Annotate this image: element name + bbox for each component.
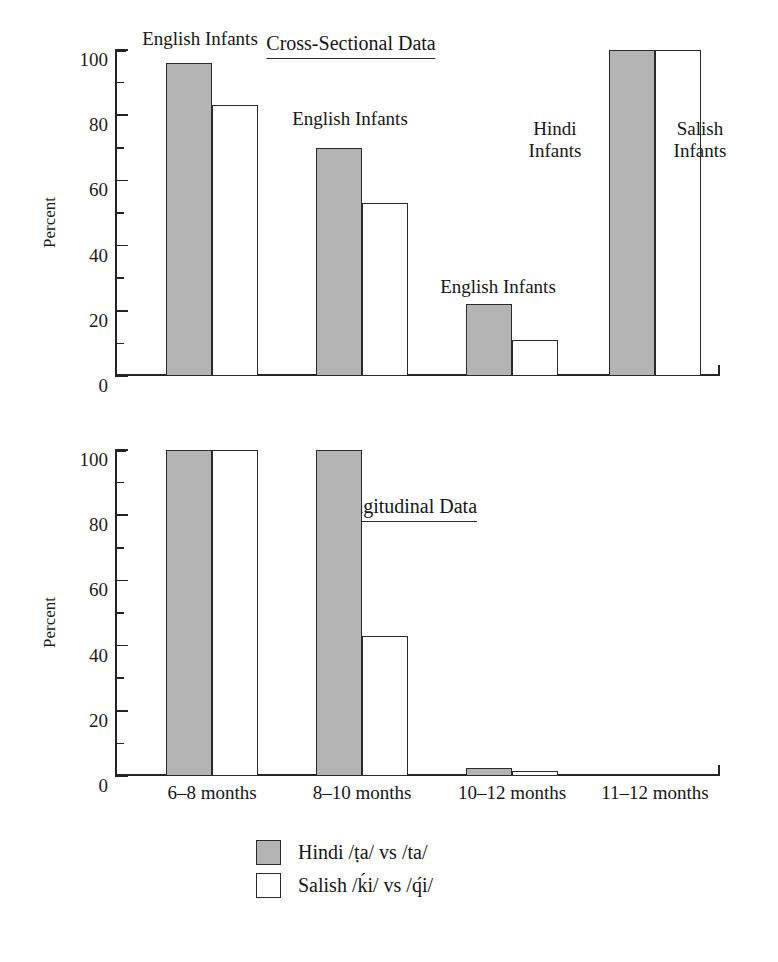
bar-group <box>466 50 558 376</box>
figure-root: Cross-Sectional Data Percent 02040608010… <box>0 0 778 962</box>
bar-group <box>609 450 701 776</box>
plot-area-longitudinal <box>115 450 720 776</box>
y-tick-minor-90 <box>115 482 124 484</box>
y-tick-major-100 <box>115 449 128 451</box>
y-tick-minor-50 <box>115 612 124 614</box>
legend: Hindi /ṭa/ vs /ta/Salish /ḱi/ vs /q́i/ <box>256 836 433 902</box>
legend-label: Salish /ḱi/ vs /q́i/ <box>298 874 433 897</box>
bar-hindi <box>166 63 212 376</box>
bar-salish <box>512 771 558 776</box>
x-tick-label-3: 11–12 months <box>601 782 709 804</box>
y-axis-tick-labels-top: 020406080100 <box>66 50 108 376</box>
bar-annotation: English Infants <box>260 108 440 130</box>
y-tick-major-0 <box>115 375 128 377</box>
bar-salish <box>212 105 258 376</box>
y-axis-label-top: Percent <box>40 197 60 248</box>
panel-cross-sectional: Cross-Sectional Data Percent 02040608010… <box>0 0 778 400</box>
bar-salish <box>655 50 701 376</box>
y-tick-minor-70 <box>115 147 124 149</box>
bar-annotation: Salish Infants <box>655 118 745 162</box>
x-tick-label-1: 8–10 months <box>313 782 412 804</box>
y-tick-major-20 <box>115 710 128 712</box>
bar-salish <box>512 340 558 376</box>
bar-salish <box>362 203 408 376</box>
bar-group <box>166 50 258 376</box>
legend-swatch-hindi <box>256 840 281 865</box>
bar-hindi <box>609 50 655 376</box>
panel-longitudinal: Longitudinal Data Percent 020406080100 <box>0 400 778 820</box>
legend-swatch-salish <box>256 873 281 898</box>
y-tick-minor-90 <box>115 82 124 84</box>
bar-hindi <box>166 450 212 776</box>
y-tick-major-20 <box>115 310 128 312</box>
y-tick-minor-10 <box>115 743 124 745</box>
y-tick-major-60 <box>115 580 128 582</box>
bar-hindi <box>466 768 512 776</box>
x-tick-label-2: 10–12 months <box>458 782 566 804</box>
bar-annotation: English Infants <box>110 28 290 50</box>
bar-salish <box>212 450 258 776</box>
bar-annotation: English Infants <box>408 276 588 298</box>
legend-item: Salish /ḱi/ vs /q́i/ <box>256 869 433 902</box>
bar-hindi <box>466 304 512 376</box>
legend-label: Hindi /ṭa/ vs /ta/ <box>298 841 427 864</box>
x-tick-label-0: 6–8 months <box>167 782 256 804</box>
bar-group <box>316 50 408 376</box>
bar-salish <box>362 636 408 776</box>
bar-group <box>316 450 408 776</box>
y-tick-minor-30 <box>115 677 124 679</box>
bar-hindi <box>316 148 362 376</box>
bar-group <box>609 50 701 376</box>
y-axis-tick-labels-bottom: 020406080100 <box>66 450 108 776</box>
y-tick-major-60 <box>115 180 128 182</box>
y-tick-major-40 <box>115 245 128 247</box>
bar-annotation: Hindi Infants <box>510 118 600 162</box>
bar-group <box>466 450 558 776</box>
legend-item: Hindi /ṭa/ vs /ta/ <box>256 836 433 869</box>
bar-hindi <box>316 450 362 776</box>
bar-group <box>166 450 258 776</box>
y-tick-major-40 <box>115 645 128 647</box>
y-tick-minor-30 <box>115 277 124 279</box>
x-axis-tick-labels: 6–8 months8–10 months10–12 months11–12 m… <box>115 782 720 812</box>
y-tick-minor-70 <box>115 547 124 549</box>
plot-area-cross-sectional <box>115 50 720 376</box>
y-tick-major-80 <box>115 114 128 116</box>
x-axis-right-cap-bottom <box>718 765 720 776</box>
y-tick-minor-50 <box>115 212 124 214</box>
y-axis-label-bottom: Percent <box>40 597 60 648</box>
x-axis-right-cap <box>718 365 720 376</box>
y-tick-major-0 <box>115 775 128 777</box>
y-tick-minor-10 <box>115 343 124 345</box>
y-tick-major-80 <box>115 514 128 516</box>
